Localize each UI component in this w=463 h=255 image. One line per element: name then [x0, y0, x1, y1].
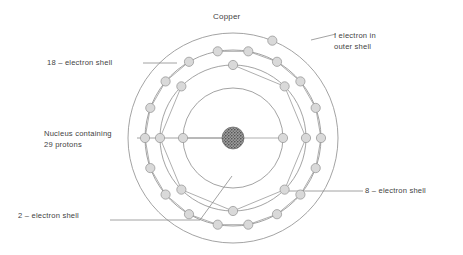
electron	[228, 60, 237, 69]
electron	[296, 190, 305, 199]
electron	[311, 103, 320, 112]
electron	[184, 57, 193, 66]
electron	[155, 133, 164, 142]
label-nucleus-line2: 29 protons	[44, 140, 82, 149]
label-nucleus: Nucleus containing29 protons	[44, 129, 112, 150]
electron	[177, 185, 186, 194]
leader-outer-electron	[311, 34, 336, 40]
electron	[161, 190, 170, 199]
electron	[213, 220, 222, 229]
label-nucleus-line1: Nucleus containing	[44, 129, 112, 138]
electron	[178, 133, 187, 142]
electron	[213, 47, 222, 56]
label-shell-2: 2 – electron shell	[18, 211, 79, 222]
electron	[311, 163, 320, 172]
electron	[272, 57, 281, 66]
label-outer-electron-line1: I electron in	[334, 31, 376, 40]
electron	[146, 103, 155, 112]
electron	[296, 77, 305, 86]
label-shell-8: 8 – electron shell	[365, 186, 426, 197]
electron	[244, 47, 253, 56]
electron-link	[285, 138, 306, 190]
electron-link	[181, 190, 233, 211]
electron	[272, 210, 281, 219]
nucleus	[222, 127, 244, 149]
electron	[140, 133, 149, 142]
electron	[280, 82, 289, 91]
electron-link	[160, 138, 181, 190]
electron-link	[233, 190, 285, 211]
electron	[280, 185, 289, 194]
electron-link	[160, 86, 181, 138]
electron	[184, 210, 193, 219]
electron	[244, 220, 253, 229]
nucleus-group	[222, 127, 244, 149]
electron	[146, 163, 155, 172]
electron	[301, 133, 310, 142]
electron	[316, 133, 325, 142]
electron	[228, 206, 237, 215]
label-shell-18: 18 – electron shell	[47, 58, 112, 69]
label-outer-electron: I electron inouter shell	[334, 31, 376, 52]
electron	[268, 36, 277, 45]
electron-link	[233, 65, 285, 86]
atom-diagram-canvas: Copper I electron inouter shell 18 – ele…	[0, 0, 463, 255]
electron	[177, 82, 186, 91]
electron-link	[285, 86, 306, 138]
electron	[161, 77, 170, 86]
label-outer-electron-line2: outer shell	[334, 42, 371, 51]
leader-shell-2-b	[200, 176, 232, 220]
electron	[278, 133, 287, 142]
